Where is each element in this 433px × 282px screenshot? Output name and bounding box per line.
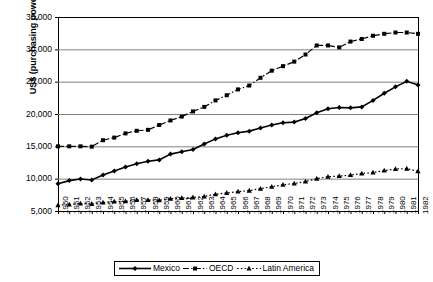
x-axis-tick-label: 1951: [73, 196, 81, 214]
y-axis-tick-label: 20,000: [0, 110, 52, 119]
y-axis-tick-label: 5,000: [0, 207, 52, 216]
x-axis-tick-label: 1970: [287, 196, 295, 214]
data-point-marker: [169, 118, 173, 122]
x-axis-tick-label: 1963: [208, 196, 216, 214]
data-point-marker: [405, 31, 409, 35]
x-axis-tick-label: 1964: [219, 196, 227, 214]
line-chart: US$ (purchasing power parity) 35,00030,0…: [0, 0, 433, 282]
legend-label: OECD: [208, 264, 236, 273]
legend-label: Mexico: [152, 264, 182, 273]
data-point-marker: [101, 138, 105, 142]
x-axis-tick-label: 1969: [275, 196, 283, 214]
data-point-marker: [202, 105, 206, 109]
data-point-marker: [382, 32, 386, 36]
data-point-marker: [281, 64, 285, 68]
x-axis-tick-label: 1958: [152, 196, 160, 214]
legend-marker-triangle-icon: [236, 263, 262, 274]
y-axis-tick-label: 30,000: [0, 45, 52, 54]
x-axis-tick-label: 1965: [230, 196, 238, 214]
x-axis-tick-label: 1972: [309, 196, 317, 214]
data-point-marker: [337, 45, 341, 49]
data-point-marker: [157, 123, 161, 127]
x-axis-tick-label: 1982: [422, 196, 430, 214]
data-point-marker: [292, 60, 296, 64]
y-axis-tick-label: 15,000: [0, 142, 52, 151]
x-axis-tick-label: 1959: [163, 196, 171, 214]
x-axis-tick-label: 1956: [129, 196, 137, 214]
x-axis-tick-label: 1968: [264, 196, 272, 214]
plot-area: [0, 0, 433, 282]
data-point-marker: [304, 53, 308, 57]
x-axis-tick-label: 1976: [354, 196, 362, 214]
data-point-marker: [112, 136, 116, 140]
data-point-marker: [124, 131, 128, 135]
data-point-marker: [180, 115, 184, 119]
x-axis-tick-label: 1980: [399, 196, 407, 214]
x-axis-tick-label: 1967: [253, 196, 261, 214]
chart-legend: MexicoOECDLatin America: [114, 261, 320, 276]
data-point-marker: [246, 266, 251, 271]
data-point-marker: [225, 93, 229, 97]
data-point-marker: [56, 144, 60, 148]
data-point-marker: [259, 76, 263, 80]
data-point-marker: [360, 37, 364, 41]
legend-item-mexico[interactable]: Mexico: [118, 262, 182, 275]
x-axis-tick-label: 1979: [388, 196, 396, 214]
data-point-marker: [247, 84, 251, 88]
x-axis-tick-label: 1961: [185, 196, 193, 214]
data-point-marker: [193, 267, 197, 271]
legend-marker-square-icon: [182, 263, 208, 274]
legend-item-oecd[interactable]: OECD: [182, 262, 236, 275]
x-axis-tick-label: 1962: [197, 196, 205, 214]
x-axis-tick-label: 1954: [107, 196, 115, 214]
x-axis-tick-label: 1952: [84, 196, 92, 214]
data-point-marker: [146, 128, 150, 132]
legend-marker-diamond-icon: [118, 263, 152, 274]
data-point-marker: [191, 109, 195, 113]
x-axis-tick-label: 1978: [377, 196, 385, 214]
x-axis-tick-label: 1966: [242, 196, 250, 214]
x-axis-tick-label: 1975: [343, 196, 351, 214]
x-axis-tick-label: 1974: [332, 196, 340, 214]
data-point-marker: [236, 87, 240, 91]
data-point-marker: [90, 145, 94, 149]
data-point-marker: [315, 43, 319, 47]
x-axis-tick-label: 1960: [174, 196, 182, 214]
data-point-marker: [270, 69, 274, 73]
x-axis-tick-label: 1981: [410, 196, 418, 214]
x-axis-tick-label: 1973: [320, 196, 328, 214]
data-point-marker: [326, 43, 330, 47]
legend-item-latin-america[interactable]: Latin America: [236, 262, 317, 275]
y-axis-tick-label: 10,000: [0, 174, 52, 183]
data-point-marker: [394, 31, 398, 35]
data-point-marker: [133, 266, 138, 271]
data-point-marker: [371, 34, 375, 38]
x-axis-tick-label: 1950: [62, 196, 70, 214]
x-axis-tick-label: 1955: [118, 196, 126, 214]
y-axis-tick-label: 35,000: [0, 13, 52, 22]
x-axis-tick-label: 1977: [365, 196, 373, 214]
data-point-marker: [416, 32, 420, 36]
data-point-marker: [67, 144, 71, 148]
x-axis-tick-label: 1971: [298, 196, 306, 214]
data-point-marker: [135, 129, 139, 133]
y-axis-tick-label: 25,000: [0, 77, 52, 86]
legend-label: Latin America: [262, 264, 317, 273]
data-point-marker: [79, 144, 83, 148]
data-point-marker: [214, 98, 218, 102]
x-axis-tick-label: 1957: [140, 196, 148, 214]
x-axis-tick-label: 1953: [95, 196, 103, 214]
data-point-marker: [349, 40, 353, 44]
